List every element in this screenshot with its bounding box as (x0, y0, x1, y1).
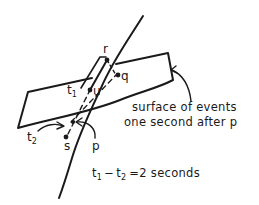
arrow-caption-to-surface (172, 70, 191, 101)
point-r (105, 58, 110, 63)
label-q: q (121, 69, 129, 83)
label-p: p (92, 139, 100, 153)
point-q (116, 73, 121, 78)
label-u: u (93, 84, 101, 98)
equation: t1−t2=2 seconds (92, 166, 200, 182)
label-r: r (103, 42, 108, 56)
label-t1: t1 (67, 83, 77, 99)
point-u (88, 88, 93, 93)
point-p (71, 120, 75, 124)
surface-caption-line2: one second after p (124, 115, 237, 129)
surface-caption-line1: surface of events (132, 100, 237, 114)
label-t2: t2 (27, 130, 37, 146)
label-s: s (64, 139, 70, 153)
spacetime-diagram: r q u s p t1 t2 surface of events one se… (0, 0, 259, 205)
